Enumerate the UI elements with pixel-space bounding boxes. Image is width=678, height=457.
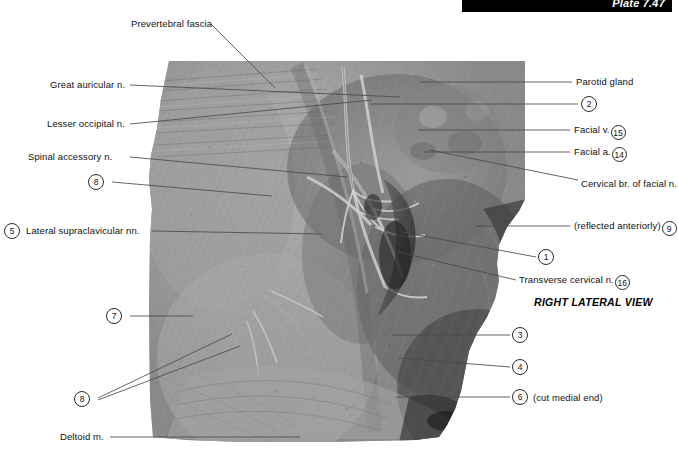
label-reflected-anteriorly-text: (reflected anteriorly) [574,220,661,231]
ref-number-6-cut-medial-end: 6 [512,389,528,405]
label-transverse-cervical-nerve: Transverse cervical n.16 [519,274,631,290]
label-lateral-supraclavicular-nerves: Lateral supraclavicular nn. [26,225,140,236]
label-transverse-cervical-nerve-text: Transverse cervical n. [519,274,614,285]
label-prevertebral-fascia: Prevertebral fascia [131,18,212,29]
plate-number-banner: Plate 7.47 [462,0,672,12]
ref-number-8-lower: 8 [74,391,90,407]
dissection-photograph-image [147,59,527,443]
label-great-auricular-nerve: Great auricular n. [50,79,125,90]
ref-number-5-lateral-supraclavicular: 5 [4,223,20,239]
label-facial-vein: Facial v.15 [574,124,627,140]
ref-number-1: 1 [538,249,554,265]
label-cervical-branch-facial-nerve: Cervical br. of facial n. [581,178,677,189]
ref-number-3: 3 [512,327,528,343]
label-parotid-gland: Parotid gland [576,76,633,87]
label-facial-vein-text: Facial v. [574,124,610,135]
ref-number-14-facial-artery: 14 [612,147,627,162]
label-reflected-anteriorly: (reflected anteriorly)9 [574,220,678,236]
label-lesser-occipital-nerve: Lesser occipital n. [47,118,125,129]
label-cut-medial-end: (cut medial end) [533,392,603,403]
anatomy-plate-page: Plate 7.47 [0,0,678,457]
ref-number-15-facial-vein: 15 [611,125,626,140]
label-facial-artery-text: Facial a. [574,146,611,157]
label-facial-artery: Facial a.14 [574,146,628,162]
ref-number-4: 4 [512,359,528,375]
ref-number-7: 7 [106,308,122,324]
view-orientation-caption: RIGHT LATERAL VIEW [534,296,653,308]
ref-number-2: 2 [581,96,597,112]
ref-number-9-reflected: 9 [662,221,677,236]
ref-number-8-upper: 8 [88,174,104,190]
dissection-photograph [147,59,527,443]
label-deltoid-muscle: Deltoid m. [60,431,104,442]
label-spinal-accessory-nerve: Spinal accessory n. [28,151,112,162]
ref-number-16-transverse-cervical: 16 [615,275,630,290]
